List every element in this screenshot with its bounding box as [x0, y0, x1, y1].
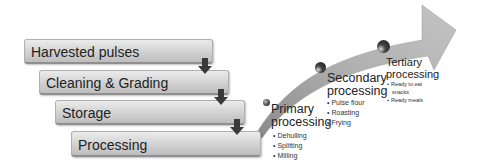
secondary-processing-title: Secondary processing [327, 72, 387, 98]
step-label: Storage [62, 104, 111, 122]
list-item: Splitting [273, 141, 307, 151]
down-arrow-icon [214, 89, 228, 105]
tertiary-processing-title: Tertiary processing [386, 56, 439, 80]
down-arrow-icon [198, 58, 212, 74]
primary-marker-icon [263, 99, 270, 106]
list-item: Milling [273, 151, 307, 161]
step-label: Processing [78, 136, 147, 154]
step-harvested-pulses: Harvested pulses [24, 39, 213, 64]
step-label: Cleaning & Grading [46, 74, 168, 92]
down-arrow-icon [230, 119, 244, 135]
title-line: processing [386, 68, 439, 80]
primary-processing-list: Dehulling Splitting Milling [273, 131, 307, 161]
list-item: Ready meals [387, 96, 423, 104]
list-item: Frying [327, 118, 365, 128]
list-item: Pulse flour [327, 98, 365, 108]
list-item: Roasting [327, 108, 365, 118]
secondary-marker-icon [315, 62, 326, 73]
title-line: processing [327, 85, 387, 98]
step-label: Harvested pulses [31, 43, 139, 61]
secondary-processing-list: Pulse flour Roasting Frying [327, 98, 365, 128]
list-item: Dehulling [273, 131, 307, 141]
list-item: Ready to eat [387, 80, 423, 88]
title-line: Tertiary [386, 56, 439, 68]
tertiary-processing-list: Ready to eat snacks Ready meals [387, 80, 423, 104]
tertiary-marker-icon [377, 40, 390, 53]
list-item-continuation: snacks [387, 88, 423, 96]
primary-processing-title: Primary processing [271, 103, 331, 129]
title-line: processing [271, 116, 331, 129]
pulse-processing-diagram: Harvested pulses Cleaning & Grading Stor… [0, 0, 477, 166]
